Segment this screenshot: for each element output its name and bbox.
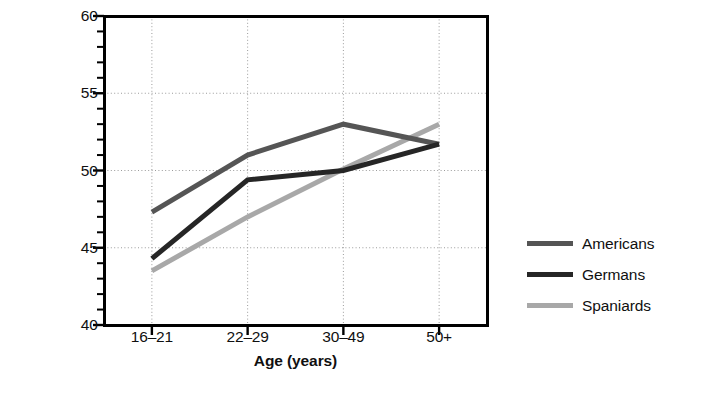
legend-item-label: Americans	[582, 235, 654, 253]
x-axis-tick-label: 16–21	[97, 328, 207, 346]
y-axis-tick-label: 40	[64, 316, 98, 334]
grid-lines	[104, 16, 487, 325]
series-line-germans	[152, 144, 439, 258]
legend-item[interactable]: Germans	[527, 259, 707, 290]
legend-color-swatch	[527, 303, 573, 308]
x-axis-tick-label: 50+	[384, 328, 494, 346]
y-axis-tick-label: 50	[64, 162, 98, 180]
x-axis-tick-label: 30–49	[288, 328, 398, 346]
x-axis-tick-label: 22–29	[193, 328, 303, 346]
legend-item[interactable]: Americans	[527, 228, 707, 259]
legend-item-label: Germans	[582, 266, 645, 284]
legend-color-swatch	[527, 272, 573, 277]
series-line-spaniards	[152, 124, 439, 271]
y-axis-tick-labels: 4045505560	[58, 0, 98, 400]
y-axis-tick-label: 60	[64, 7, 98, 25]
legend-item-label: Spaniards	[582, 297, 651, 315]
x-axis-title: Age (years)	[104, 352, 487, 370]
y-axis-tick-label: 45	[64, 239, 98, 257]
chart-figure: 4045505560 16–2122–2930–4950+ Conscienti…	[0, 0, 715, 400]
series-line-americans	[152, 124, 439, 212]
chart-legend: AmericansGermansSpaniards	[527, 228, 707, 321]
legend-item[interactable]: Spaniards	[527, 290, 707, 321]
series-lines	[152, 124, 439, 271]
y-axis-tick-label: 55	[64, 84, 98, 102]
legend-color-swatch	[527, 241, 573, 246]
